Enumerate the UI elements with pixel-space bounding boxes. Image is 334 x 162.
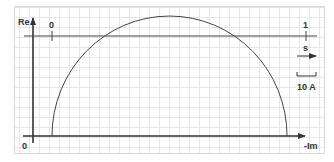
scale-bar [297,72,316,76]
slip-start-label: 0 [49,21,54,30]
circle-locus [52,16,287,136]
re-axis-label: Re [18,18,30,27]
origin-label: 0 [22,142,27,151]
im-axis-label: -Im [304,142,318,151]
scale-bar-label: 10 A [297,83,316,92]
slip-arrow-label: s [303,44,308,53]
slip-end-label: 1 [303,21,308,30]
